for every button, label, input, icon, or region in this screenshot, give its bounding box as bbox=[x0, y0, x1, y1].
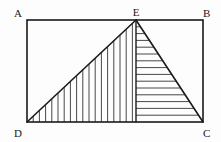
geometry-figure: A B C D E bbox=[0, 0, 221, 142]
vertex-label-b: B bbox=[203, 7, 210, 19]
geometry-canvas: A B C D E bbox=[0, 0, 221, 142]
vertex-label-d: D bbox=[14, 127, 22, 139]
vertex-label-a: A bbox=[14, 7, 22, 19]
vertex-label-c: C bbox=[203, 127, 210, 139]
vertex-label-e: E bbox=[133, 6, 140, 18]
